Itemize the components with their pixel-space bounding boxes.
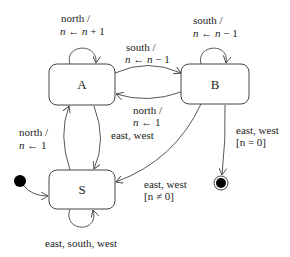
svg-text:n ← 1: n ← 1 — [133, 116, 161, 128]
svg-text:[n ≠ 0]: [n ≠ 0] — [144, 190, 174, 202]
svg-text:[n = 0]: [n = 0] — [236, 136, 266, 148]
svg-text:n ← 1: n ← 1 — [19, 139, 47, 151]
label-a-self: north / n ← n + 1 — [60, 12, 105, 37]
a-to-s-transition — [94, 106, 101, 169]
svg-text:east, west: east, west — [111, 129, 154, 141]
label-b-self: south / n ← n − 1 — [193, 14, 238, 39]
svg-text:east, south, west: east, south, west — [45, 237, 117, 249]
svg-text:n ← n − 1: n ← n − 1 — [125, 53, 170, 65]
svg-text:south /: south / — [193, 14, 224, 26]
svg-text:east, west: east, west — [144, 178, 187, 190]
svg-text:east, west: east, west — [236, 124, 279, 136]
s-self-loop — [69, 209, 94, 227]
label-s-to-a: north / n ← 1 — [19, 126, 49, 151]
label-a-to-b: south / n ← n − 1 — [125, 41, 170, 65]
svg-text:n ← n − 1: n ← n − 1 — [193, 27, 238, 39]
label-b-to-s: east, west [n ≠ 0] — [144, 178, 187, 202]
a-to-b-transition — [115, 66, 181, 74]
b-self-loop — [200, 48, 226, 64]
svg-text:north /: north / — [133, 104, 163, 116]
label-b-to-final: east, west [n = 0] — [236, 124, 279, 148]
s-to-a-transition — [64, 106, 70, 170]
state-b-label: B — [211, 77, 220, 92]
label-a-to-s: east, west — [111, 129, 154, 141]
state-b: B — [181, 64, 249, 104]
state-a-label: A — [77, 77, 87, 92]
svg-text:north /: north / — [19, 126, 49, 138]
a-self-loop — [69, 48, 96, 64]
final-state-icon — [214, 176, 228, 190]
state-a: A — [49, 64, 115, 105]
state-diagram: A B S north / n ← n + 1 south / n ← n − … — [0, 0, 290, 257]
b-to-a-transition — [116, 92, 181, 99]
initial-transition — [24, 186, 48, 196]
svg-text:n ← n + 1: n ← n + 1 — [60, 25, 105, 37]
svg-text:south /: south / — [126, 41, 157, 53]
state-s: S — [49, 170, 115, 209]
state-s-label: S — [78, 182, 85, 197]
initial-state-icon — [14, 175, 26, 187]
label-b-to-a: north / n ← 1 — [133, 104, 163, 128]
svg-text:north /: north / — [61, 12, 91, 24]
b-to-final-transition — [222, 105, 225, 175]
label-s-self: east, south, west — [45, 237, 117, 249]
